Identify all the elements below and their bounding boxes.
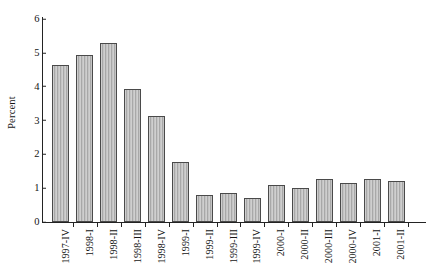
bar	[124, 89, 141, 222]
y-axis-tick-label: 3	[34, 115, 42, 126]
y-axis-tick: 2	[18, 149, 46, 160]
x-axis-tick-label-text: 1999-III	[227, 229, 238, 263]
bar	[148, 116, 165, 222]
bar-chart: Percent 0123456 1997-IV1998-I1998-II1998…	[0, 0, 435, 279]
x-axis-tick-mark	[264, 223, 265, 227]
bar	[340, 183, 357, 222]
y-axis-tick: 4	[18, 81, 46, 92]
x-axis-tick-mark	[240, 223, 241, 227]
y-axis-tick: 0	[18, 217, 46, 228]
bar	[220, 193, 237, 222]
bar	[172, 162, 189, 222]
x-axis-tick-label-text: 1999-I	[179, 229, 190, 256]
y-axis-tick-label: 2	[34, 149, 42, 160]
x-axis-tick-label-text: 2000-I	[275, 229, 286, 256]
bar	[388, 181, 405, 222]
y-axis-tick-label: 1	[34, 183, 42, 194]
x-axis-tick-label-text: 1999-IV	[251, 229, 262, 264]
bar	[244, 198, 261, 222]
bar	[316, 179, 333, 222]
x-axis-tick-mark	[145, 223, 146, 227]
x-axis-tick-mark	[336, 223, 337, 227]
x-axis-tick-label-text: 1999-II	[203, 229, 214, 260]
y-axis-tick: 6	[18, 14, 46, 25]
x-axis-tick-label-text: 1998-I	[83, 229, 94, 256]
x-axis-tick-mark	[169, 223, 170, 227]
x-axis-tick-mark	[73, 223, 74, 227]
x-axis-tick-mark	[121, 223, 122, 227]
y-axis-tick-label: 6	[34, 14, 42, 25]
x-axis-tick-mark	[193, 223, 194, 227]
x-axis-tick-label-text: 2000-IV	[347, 229, 358, 264]
y-axis-tick: 5	[18, 48, 46, 59]
x-axis-tick-label-text: 1998-III	[131, 229, 142, 263]
bar	[268, 185, 285, 222]
bar-series: 1997-IV1998-I1998-II1998-III1998-IV1999-…	[43, 0, 426, 279]
y-axis-tick: 1	[18, 183, 46, 194]
bar	[100, 43, 117, 222]
x-axis-tick-mark	[312, 223, 313, 227]
y-axis-tick-label: 0	[34, 217, 42, 228]
bar	[364, 179, 381, 222]
x-axis-tick-mark	[384, 223, 385, 227]
x-axis-tick-mark	[408, 223, 409, 227]
x-axis-tick-label-text: 1998-IV	[155, 229, 166, 264]
bar	[196, 195, 213, 222]
bar	[76, 55, 93, 222]
y-axis-tick: 3	[18, 115, 46, 126]
bar	[52, 65, 69, 222]
y-axis-title-label: Percent	[6, 96, 17, 129]
x-axis-tick-label-text: 2000-II	[299, 229, 310, 260]
bar	[292, 188, 309, 222]
x-axis-tick-label-text: 2001-II	[395, 229, 406, 260]
x-axis-tick-label-text: 1998-II	[107, 229, 118, 260]
y-axis-tick-label: 4	[34, 81, 42, 92]
x-axis-tick-mark	[217, 223, 218, 227]
x-axis-tick-label-text: 2001-I	[371, 229, 382, 256]
x-axis-tick-label-text: 2000-III	[323, 229, 334, 263]
x-axis-tick-mark	[97, 223, 98, 227]
x-axis-tick-label-text: 1997-IV	[59, 229, 70, 264]
x-axis-tick-mark	[360, 223, 361, 227]
y-axis-tick-label: 5	[34, 48, 42, 59]
x-axis-tick-mark	[288, 223, 289, 227]
